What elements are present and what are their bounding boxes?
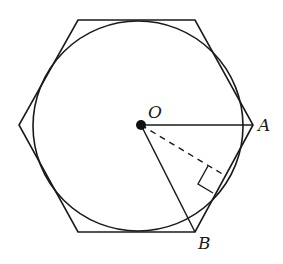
label-a: A <box>256 115 270 135</box>
segment-ob <box>141 125 195 232</box>
hexagon-circle-diagram: O A B <box>0 0 283 264</box>
regular-hexagon <box>19 20 253 232</box>
label-o: O <box>148 102 162 122</box>
label-b: B <box>197 233 211 253</box>
right-angle-marker <box>198 166 213 193</box>
center-point-o <box>136 120 146 130</box>
